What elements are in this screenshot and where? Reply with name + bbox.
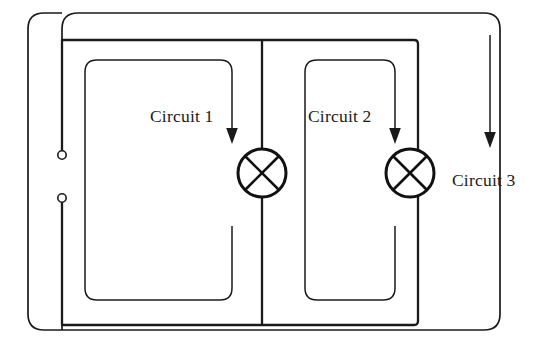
circuit-3-label: Circuit 3 — [452, 170, 516, 190]
lamp-1 — [238, 149, 286, 197]
inner-rail-bottom — [62, 197, 418, 325]
circuit-diagram: Circuit 1 Circuit 2 Circuit 3 — [0, 0, 542, 346]
circuit-3-arrowhead — [484, 132, 496, 148]
lamp-2 — [386, 149, 434, 197]
circuit-2-label: Circuit 2 — [308, 106, 372, 126]
circuit-2-loop-path — [305, 60, 395, 300]
circuit-1-label: Circuit 1 — [150, 106, 214, 126]
circuit-1-arrowhead — [226, 128, 238, 144]
circuit-1-flow-arrow — [85, 60, 238, 300]
terminal-top-icon — [58, 151, 66, 159]
circuit-1-loop-path — [85, 60, 232, 300]
inner-rail-top — [62, 40, 418, 155]
circuit-3-flow-arrow — [484, 35, 496, 148]
terminal-bottom-icon — [58, 194, 66, 202]
circuit-diagram-canvas: Circuit 1 Circuit 2 Circuit 3 — [0, 0, 542, 346]
circuit-2-arrowhead — [389, 128, 401, 144]
